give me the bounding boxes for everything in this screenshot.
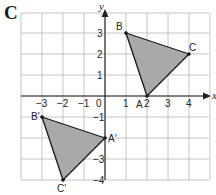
y-tick-label: −1 xyxy=(93,112,105,123)
x-tick-label: 3 xyxy=(165,98,171,109)
x-tick-label: −1 xyxy=(78,98,90,109)
vertex-label: B xyxy=(116,21,123,32)
vertex-labels: ABCA′B′C′ xyxy=(31,21,196,194)
x-tick-label: −3 xyxy=(36,98,48,109)
y-tick-label: 2 xyxy=(97,49,103,60)
vertex-label: A xyxy=(136,99,143,110)
x-tick-label: 4 xyxy=(186,98,192,109)
origin-label: 0 xyxy=(96,98,102,109)
y-axis-label: y xyxy=(98,0,104,12)
y-tick-label: 3 xyxy=(97,28,103,39)
vertex-label: C xyxy=(189,42,196,53)
triangle-abc-prime xyxy=(42,117,105,180)
x-tick-label: 1 xyxy=(123,98,129,109)
vertex-label: C′ xyxy=(57,183,66,194)
x-tick-label: −2 xyxy=(57,98,69,109)
x-axis-label: x xyxy=(211,89,216,101)
y-tick-label: −4 xyxy=(93,175,105,186)
vertex-point xyxy=(124,31,128,35)
triangle-abc xyxy=(126,33,189,96)
coordinate-plane-diagram: C x y −3−2−112340321−1−3−4 ABCA′B′C′ xyxy=(0,0,216,195)
y-tick-label: 1 xyxy=(97,70,103,81)
vertex-label: A′ xyxy=(108,133,117,144)
panel-label: C xyxy=(4,2,18,23)
x-tick-label: 2 xyxy=(144,98,150,109)
vertex-point xyxy=(40,115,44,119)
vertex-label: B′ xyxy=(31,111,40,122)
vertex-point xyxy=(61,178,65,182)
y-tick-label: −3 xyxy=(93,154,105,165)
